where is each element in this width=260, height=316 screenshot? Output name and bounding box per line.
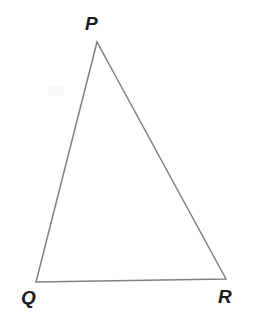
triangle-pqr-outline	[36, 42, 226, 282]
vertex-label-q: Q	[21, 288, 36, 307]
vertex-label-p: P	[85, 14, 98, 33]
vertex-label-r: R	[218, 287, 232, 306]
geometry-figure: P Q R	[0, 0, 260, 316]
triangle-diagram	[0, 0, 260, 316]
